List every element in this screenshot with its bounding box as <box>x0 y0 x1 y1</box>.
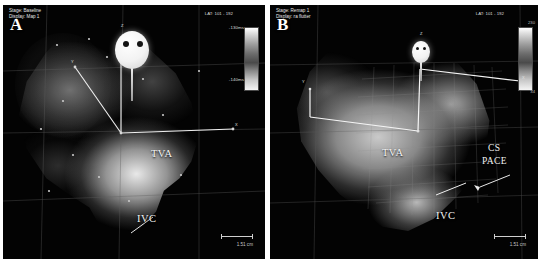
panel-a-lat-range: LAT: 101 - 192 <box>205 11 233 16</box>
panel-a-colorbar-top-label: -130ms <box>229 25 244 30</box>
panel-b-annotation-cs-pace-line1: CS <box>488 143 500 153</box>
panel-b-axis-marker-y: Y <box>302 79 305 84</box>
panel-a-catheter-tip <box>115 31 149 69</box>
panel-a-catheter-shaft <box>131 67 133 101</box>
panel-a-annotation-ivc: IVC <box>137 213 156 224</box>
panel-b-catheter-tip <box>412 41 430 63</box>
panel-b-colorbar-bottom-label: 34 <box>530 89 535 94</box>
panel-b-scale-bar <box>494 236 526 237</box>
panel-b-axis-marker-z: Z <box>420 31 422 36</box>
panel-a-lat-colorbar <box>244 27 259 91</box>
screenshot-root: Stage: Baseline Display: Map 1 LAT: 101 … <box>0 0 541 264</box>
panel-b-letter: B <box>277 16 288 33</box>
panel-a-axis-marker-z: Z <box>121 23 123 28</box>
panel-a-axis-marker-y: Y <box>71 59 74 64</box>
panel-b-annotation-ivc: IVC <box>436 210 455 221</box>
panel-b-catheter-shaft <box>420 61 422 81</box>
panel-b-axis-marker-x: X <box>522 75 525 80</box>
panel-a-annotation-tva: TVA <box>151 148 173 159</box>
panel-b-lat-colorbar <box>518 27 533 91</box>
panel-a-letter: A <box>10 16 22 33</box>
panel-a-scale-bar <box>221 236 253 237</box>
panel-b-scale-label: 1.51 cm <box>510 242 526 247</box>
panel-b-annotation-cs-pace-line2: PACE <box>482 156 507 166</box>
panel-a-electrode-2 <box>137 41 143 47</box>
panel-b-electrode-1 <box>416 47 419 50</box>
panel-b-lat-range: LAT: 101 - 192 <box>476 11 504 16</box>
panel-a-scale-label: 1.51 cm <box>237 242 253 247</box>
panel-a-axis-marker-x: X <box>235 122 238 127</box>
panel-b-electrode-2 <box>423 47 426 50</box>
panel-b-annotation-tva: TVA <box>382 147 404 158</box>
panel-b-colorbar-top-label: 230 <box>528 20 535 25</box>
panel-a-electrode-1 <box>123 41 129 47</box>
panel-a-colorbar-bottom-label: -140ms <box>229 77 244 82</box>
map-panel-a[interactable]: Stage: Baseline Display: Map 1 LAT: 101 … <box>3 5 265 259</box>
map-panel-b[interactable]: Stage: Remap 1 Display: ra flutter LAT: … <box>270 5 538 259</box>
